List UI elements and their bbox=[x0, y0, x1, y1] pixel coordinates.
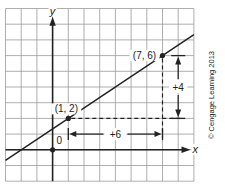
grid bbox=[6, 9, 194, 182]
point-1-2 bbox=[66, 116, 71, 121]
origin-point bbox=[50, 147, 55, 152]
up-arrow-icon bbox=[175, 57, 181, 65]
x-axis-arrow-icon bbox=[181, 147, 190, 153]
graph-figure: +6 +4 (1, 2) (7, 6) 0 x y © Cengage Lear… bbox=[0, 0, 225, 192]
point-7-6 bbox=[160, 53, 165, 58]
x-axis-label: x bbox=[191, 143, 198, 155]
copyright-notice: © Cengage Learning 2013 bbox=[207, 51, 216, 139]
rise-label: +4 bbox=[172, 82, 184, 93]
run-label: +6 bbox=[110, 129, 122, 140]
run-indicator: +6 bbox=[68, 128, 162, 140]
down-arrow-icon bbox=[175, 109, 181, 117]
y-axis-arrow-icon bbox=[49, 17, 55, 26]
origin-label: 0 bbox=[57, 135, 63, 146]
point-7-6-label: (7, 6) bbox=[133, 50, 156, 61]
rise-indicator: +4 bbox=[169, 56, 187, 119]
y-axis bbox=[49, 17, 55, 182]
left-arrow-icon bbox=[69, 131, 76, 137]
point-1-2-label: (1, 2) bbox=[55, 103, 78, 114]
right-arrow-icon bbox=[155, 131, 162, 137]
